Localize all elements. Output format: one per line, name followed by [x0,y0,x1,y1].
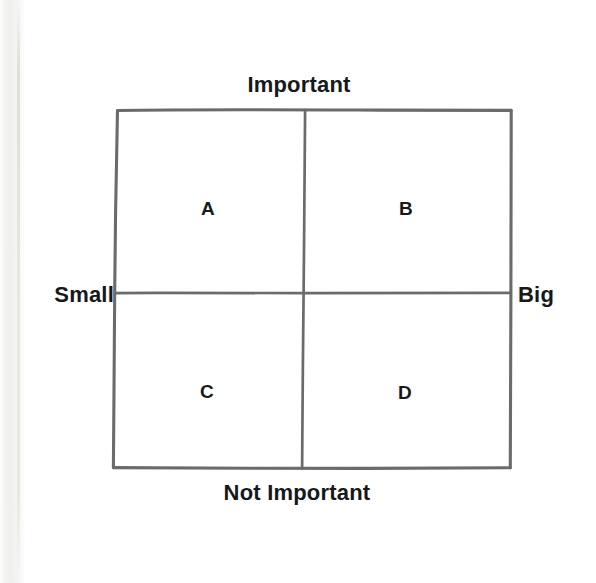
matrix-border-right [510,110,511,467]
matrix-border-left [113,111,117,468]
diagram-page: Important Not Important Small Big A B C … [0,0,596,583]
quadrant-label-b: B [399,199,413,218]
matrix-divider-vertical [302,110,305,468]
axis-label-right: Big [518,284,554,306]
axis-label-left: Small [54,284,114,306]
quadrant-label-d: D [398,383,412,402]
axis-label-top: Important [1,74,596,96]
quadrant-label-a: A [201,199,215,218]
matrix-border-bottom [113,468,510,469]
matrix-border-top [118,110,512,111]
axis-label-bottom: Not Important [0,482,595,504]
quadrant-label-c: C [200,382,214,401]
